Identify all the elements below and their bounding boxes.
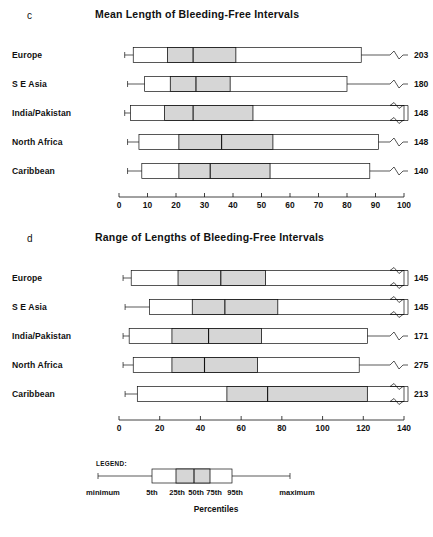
legend-iqr-box <box>176 469 210 483</box>
row-maximum-value: 171 <box>414 331 428 341</box>
legend-p50-label: 50th <box>188 488 204 497</box>
panel-c: c Mean Length of Bleeding-Free Intervals… <box>0 0 433 222</box>
x-axis-tick-label: 20 <box>155 423 164 433</box>
iqr-box-25th-75th <box>227 387 367 402</box>
legend-p5-label: 5th <box>146 488 157 497</box>
row-label: India/Pakistan <box>12 331 71 341</box>
axis-break-marker <box>390 80 408 88</box>
row-maximum-value: 145 <box>414 302 428 312</box>
row-label: India/Pakistan <box>12 108 71 118</box>
row-maximum-value: 180 <box>414 79 428 89</box>
iqr-box-25th-75th <box>165 106 253 121</box>
legend-p75-label: 75th <box>206 488 222 497</box>
iqr-box-25th-75th <box>172 358 258 373</box>
row-label: Europe <box>12 273 42 283</box>
x-axis-tick-label: 80 <box>277 423 286 433</box>
axis-break-marker <box>390 167 408 175</box>
panel-d-plot-area: Europe145S E Asia145India/Pakistan171Nor… <box>0 223 433 445</box>
panel-c-plot-area: Europe203S E Asia180India/Pakistan148Nor… <box>0 0 433 222</box>
row-maximum-value: 148 <box>414 137 428 147</box>
axis-break-marker <box>390 332 408 340</box>
row-maximum-value: 275 <box>414 360 428 370</box>
x-axis-tick-label: 140 <box>397 423 411 433</box>
outer-box-5th-95th <box>131 271 404 286</box>
x-axis-tick-label: 70 <box>314 200 323 210</box>
boxplot-row <box>128 164 408 179</box>
iqr-box-25th-75th <box>167 48 235 63</box>
x-axis-tick-label: 30 <box>200 200 209 210</box>
figure-caption <box>0 529 433 537</box>
panel-d: d Range of Lengths of Bleeding-Free Inte… <box>0 223 433 445</box>
boxplot-row <box>128 77 408 92</box>
axis-break-marker <box>390 51 408 59</box>
boxplot-row <box>125 48 408 63</box>
iqr-box-25th-75th <box>170 77 230 92</box>
x-axis-tick-label: 0 <box>117 200 122 210</box>
row-maximum-value: 140 <box>414 166 428 176</box>
legend-minimum-label: minimum <box>86 488 120 497</box>
x-axis-tick-label: 90 <box>371 200 380 210</box>
x-axis-tick-label: 100 <box>316 423 330 433</box>
x-axis-tick-label: 60 <box>236 423 245 433</box>
x-axis-tick-label: 100 <box>397 200 411 210</box>
row-label: Europe <box>12 50 42 60</box>
row-label: Caribbean <box>12 389 55 399</box>
legend-maximum-label: maximum <box>279 488 314 497</box>
iqr-box-25th-75th <box>192 300 277 315</box>
row-label: Caribbean <box>12 166 55 176</box>
boxplot-row <box>123 329 408 344</box>
axis-break-marker <box>390 361 408 369</box>
iqr-box-25th-75th <box>179 164 270 179</box>
iqr-box-25th-75th <box>172 329 262 344</box>
x-axis-tick-label: 0 <box>117 423 122 433</box>
legend-axis-title: Percentiles <box>194 504 239 514</box>
x-axis-tick-label: 80 <box>342 200 351 210</box>
boxplot-row <box>128 135 408 150</box>
row-label: North Africa <box>12 137 63 147</box>
legend-p25-label: 25th <box>169 488 185 497</box>
row-maximum-value: 203 <box>414 50 428 60</box>
x-axis-tick-label: 40 <box>228 200 237 210</box>
x-axis-tick-label: 50 <box>257 200 266 210</box>
row-label: North Africa <box>12 360 63 370</box>
iqr-box-25th-75th <box>179 135 273 150</box>
boxplot-row <box>125 103 408 124</box>
axis-break-marker <box>390 138 408 146</box>
boxplot-row <box>123 268 408 289</box>
boxplot-figure: c Mean Length of Bleeding-Free Intervals… <box>0 0 433 537</box>
boxplot-row <box>125 297 408 318</box>
x-axis-tick-label: 60 <box>285 200 294 210</box>
x-axis-tick-label: 120 <box>356 423 370 433</box>
legend: LEGEND: minimum5th25th50th75th95thmaximu… <box>0 448 433 528</box>
boxplot-row <box>125 384 408 405</box>
row-maximum-value: 145 <box>414 273 428 283</box>
row-label: S E Asia <box>12 302 47 312</box>
x-axis-tick-label: 40 <box>196 423 205 433</box>
x-axis-tick-label: 10 <box>143 200 152 210</box>
row-maximum-value: 148 <box>414 108 428 118</box>
x-axis-tick-label: 20 <box>171 200 180 210</box>
row-maximum-value: 213 <box>414 389 428 399</box>
legend-p95-label: 95th <box>227 488 243 497</box>
boxplot-row <box>123 358 408 373</box>
row-label: S E Asia <box>12 79 47 89</box>
iqr-box-25th-75th <box>178 271 266 286</box>
